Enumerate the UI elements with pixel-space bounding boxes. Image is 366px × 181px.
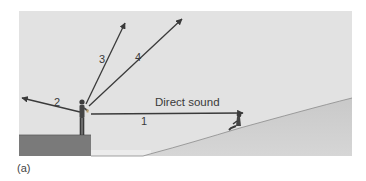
ray-2-label: 2 [54,97,60,108]
sound-propagation-diagram: 3 4 2 1 Direct sound (a) [0,0,366,181]
direct-sound-label: Direct sound [155,97,220,109]
ground-floor [91,150,151,156]
platform [19,135,91,156]
ray-3-label: 3 [99,54,105,65]
figure-caption: (a) [17,162,30,174]
ray-4-label: 4 [135,52,141,63]
diagram-canvas [0,0,366,181]
ray-1-label: 1 [141,116,147,127]
